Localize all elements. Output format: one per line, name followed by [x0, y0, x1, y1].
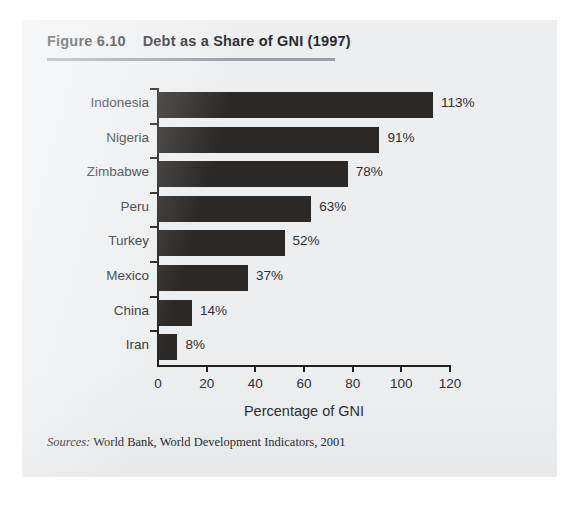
y-axis-tick: [150, 88, 158, 90]
bar: [158, 196, 311, 222]
bar-value-label: 37%: [256, 268, 283, 283]
category-label: Nigeria: [106, 130, 149, 145]
source-text: World Bank, World Development Indicators…: [90, 435, 345, 449]
plot-area: Indonesia113%Nigeria91%Zimbabwe78%Peru63…: [158, 88, 450, 365]
bar: [158, 265, 248, 291]
y-axis-tick: [150, 123, 158, 125]
category-label: Indonesia: [90, 95, 149, 110]
bar: [158, 92, 433, 118]
category-label: Zimbabwe: [87, 164, 149, 179]
bar-row: Peru63%: [158, 192, 450, 227]
y-axis-tick: [150, 330, 158, 332]
x-axis-tick: [352, 365, 354, 372]
bar: [158, 334, 177, 360]
category-label: China: [114, 303, 149, 318]
source-note: Sources: World Bank, World Development I…: [47, 435, 345, 450]
y-axis-tick: [150, 157, 158, 159]
y-axis-tick: [150, 261, 158, 263]
y-axis-tick: [150, 192, 158, 194]
x-axis-tick: [400, 365, 402, 372]
y-axis-tick: [150, 226, 158, 228]
category-label: Mexico: [106, 268, 149, 283]
bar-value-label: 113%: [441, 95, 475, 110]
x-axis-tick-label: 40: [248, 376, 263, 391]
source-label: Sources:: [47, 435, 90, 449]
bar-value-label: 63%: [319, 199, 346, 214]
bar-row: Indonesia113%: [158, 88, 450, 123]
x-axis-label: Percentage of GNI: [158, 403, 450, 419]
x-axis-tick: [449, 365, 451, 372]
bar-value-label: 52%: [293, 233, 320, 248]
bar-chart: Indonesia113%Nigeria91%Zimbabwe78%Peru63…: [22, 20, 557, 477]
bar-row: Iran8%: [158, 330, 450, 365]
bar-row: China14%: [158, 296, 450, 331]
bar: [158, 127, 379, 153]
category-label: Iran: [126, 337, 149, 352]
x-axis-tick: [303, 365, 305, 372]
bar: [158, 161, 348, 187]
bar: [158, 300, 192, 326]
bar-value-label: 91%: [387, 130, 414, 145]
figure-panel: Figure 6.10 Debt as a Share of GNI (1997…: [22, 20, 557, 477]
bar-row: Mexico37%: [158, 261, 450, 296]
bar: [158, 230, 285, 256]
bar-row: Nigeria91%: [158, 123, 450, 158]
y-axis-tick: [150, 296, 158, 298]
bar-value-label: 78%: [356, 164, 383, 179]
bar-row: Zimbabwe78%: [158, 157, 450, 192]
bar-value-label: 8%: [185, 337, 205, 352]
x-axis-tick-label: 120: [439, 376, 462, 391]
x-axis-tick-label: 0: [154, 376, 162, 391]
x-axis-tick-label: 20: [199, 376, 214, 391]
x-axis-tick: [206, 365, 208, 372]
x-axis-tick-label: 60: [296, 376, 311, 391]
bar-row: Turkey52%: [158, 226, 450, 261]
category-label: Peru: [120, 199, 149, 214]
x-axis-tick-label: 100: [390, 376, 413, 391]
x-axis-tick-label: 80: [345, 376, 360, 391]
bar-value-label: 14%: [200, 303, 227, 318]
category-label: Turkey: [108, 233, 149, 248]
x-axis-tick: [254, 365, 256, 372]
